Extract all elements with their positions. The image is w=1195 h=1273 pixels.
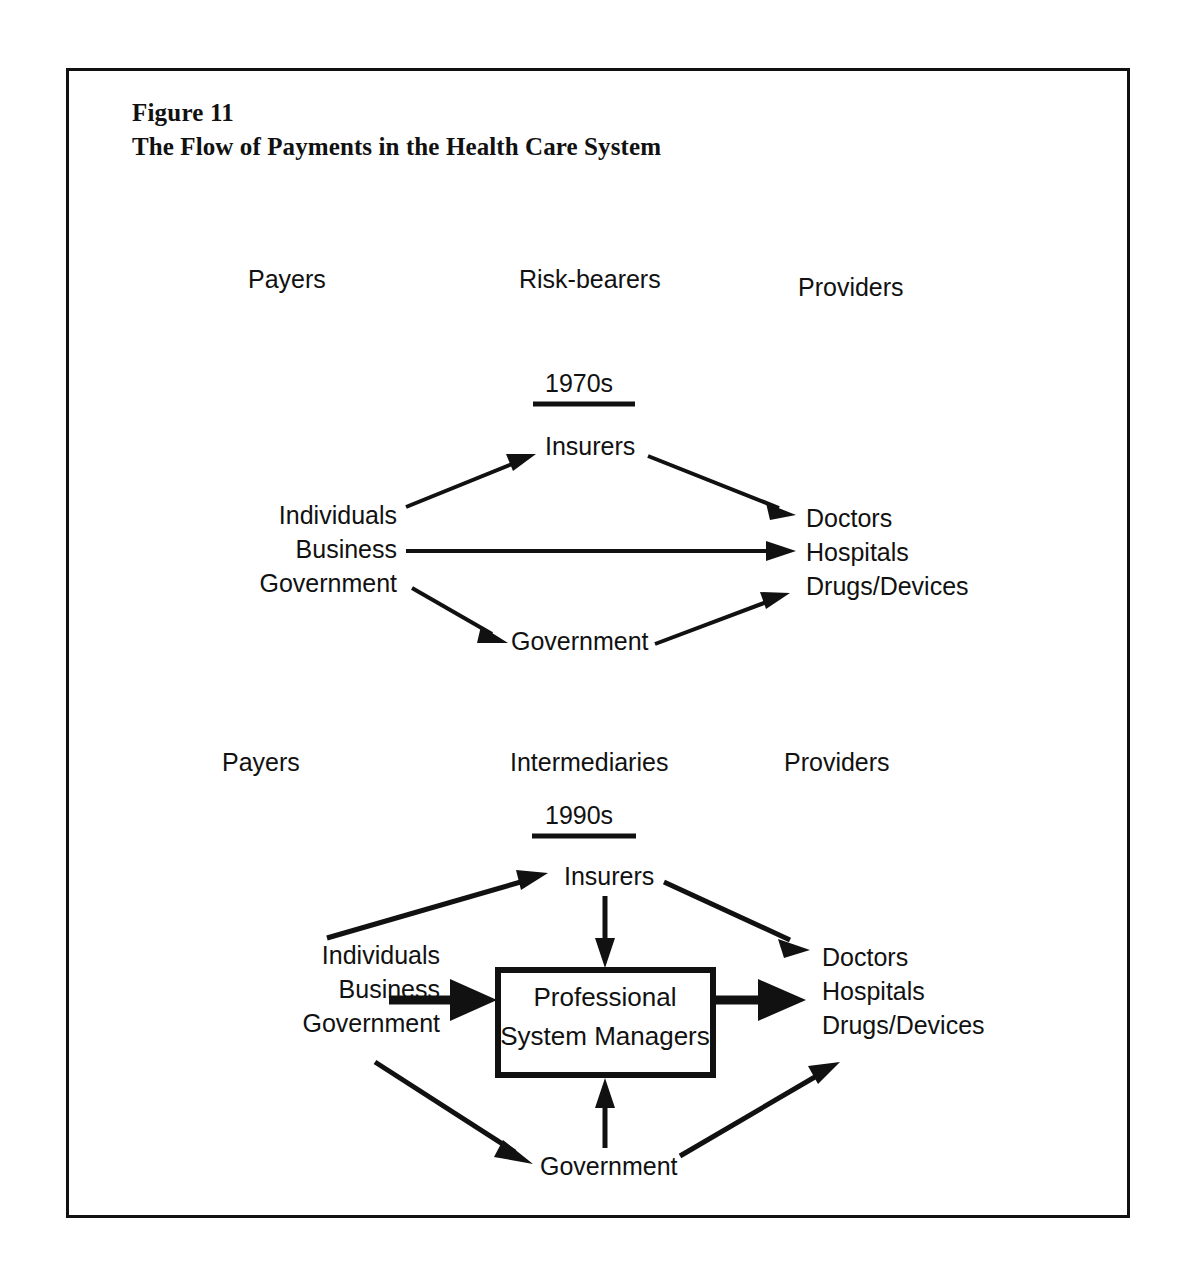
header-intermediaries-1990s: Intermediaries [510, 748, 668, 776]
node-insurers-1990s: Insurers [564, 862, 654, 890]
flow-insurers-to-providers-1970s [648, 456, 796, 520]
header-providers-1970s: Providers [798, 273, 904, 301]
flow-payers-to-insurers-1970s [406, 454, 536, 507]
flow-government-to-box-1990s [595, 1078, 615, 1148]
payer-individuals-1990s: Individuals [322, 941, 440, 969]
box-label-line-1: Professional [533, 982, 676, 1012]
era-label-1990s: 1990s [545, 801, 613, 829]
node-government-middle-1970s: Government [511, 627, 649, 655]
header-risk-bearers-1970s: Risk-bearers [519, 265, 661, 293]
flow-payers-to-government-1970s [412, 588, 508, 643]
header-payers-1990s: Payers [222, 748, 300, 776]
panel-1990s: Payers Intermediaries Providers 1990s In… [222, 748, 985, 1180]
header-providers-1990s: Providers [784, 748, 890, 776]
figure-page: Figure 11 The Flow of Payments in the He… [0, 0, 1195, 1273]
flow-insurers-to-providers-1990s [664, 882, 810, 958]
payer-individuals-1970s: Individuals [279, 501, 397, 529]
node-government-bottom-1990s: Government [540, 1152, 678, 1180]
panel-1970s: Payers Risk-bearers Providers 1970s Insu… [248, 265, 969, 655]
provider-doctors-1990s: Doctors [822, 943, 908, 971]
flow-payers-to-insurers-1990s [327, 870, 548, 938]
payer-government-1970s: Government [259, 569, 397, 597]
payer-government-1990s: Government [302, 1009, 440, 1037]
flow-government-to-providers-1970s [655, 592, 790, 644]
provider-drugs-devices-1970s: Drugs/Devices [806, 572, 969, 600]
payment-flow-diagram: Payers Risk-bearers Providers 1970s Insu… [0, 0, 1195, 1273]
payer-business-1970s: Business [296, 535, 397, 563]
provider-drugs-devices-1990s: Drugs/Devices [822, 1011, 985, 1039]
provider-doctors-1970s: Doctors [806, 504, 892, 532]
era-label-1970s: 1970s [545, 369, 613, 397]
flow-payers-to-providers-1970s [406, 541, 796, 561]
provider-hospitals-1990s: Hospitals [822, 977, 925, 1005]
header-payers-1970s: Payers [248, 265, 326, 293]
box-label-line-2: System Managers [500, 1021, 710, 1051]
provider-hospitals-1970s: Hospitals [806, 538, 909, 566]
flow-insurers-to-box-1990s [595, 896, 615, 968]
node-insurers-1970s: Insurers [545, 432, 635, 460]
flow-box-to-providers-1990s [714, 979, 806, 1021]
